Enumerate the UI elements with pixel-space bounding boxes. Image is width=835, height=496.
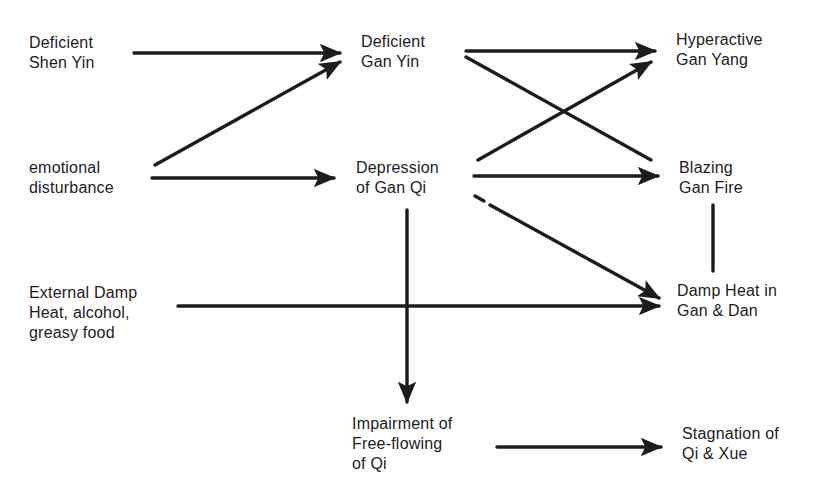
edge-emotional-to-gan-yin — [155, 62, 340, 165]
node-label-line: Damp Heat in — [677, 281, 777, 301]
node-label-line: of Gan Qi — [356, 178, 439, 198]
node-blazing-gan-fire: Blazing Gan Fire — [679, 158, 743, 198]
node-damp-heat-gan-dan: Damp Heat in Gan & Dan — [677, 281, 777, 321]
edge-depression-to-damp-heat — [490, 205, 659, 298]
node-label-line: disturbance — [29, 178, 114, 198]
pathology-flow-diagram: Deficient Shen Yin Deficient Gan Yin Hyp… — [0, 0, 835, 496]
node-hyperactive-gan-yang: Hyperactive Gan Yang — [676, 30, 763, 70]
node-deficient-gan-yin: Deficient Gan Yin — [361, 32, 425, 72]
node-deficient-shen-yin: Deficient Shen Yin — [29, 33, 95, 73]
node-label-line: greasy food — [29, 323, 137, 343]
node-label-line: Hyperactive — [676, 30, 763, 50]
node-label-line: emotional — [29, 158, 114, 178]
node-label-line: Free-flowing — [352, 434, 452, 454]
edge-gan-yin-to-blazing — [466, 57, 651, 160]
node-impairment-free-flowing: Impairment of Free-flowing of Qi — [352, 414, 452, 474]
edge-depression-to-damp-heat-start — [475, 196, 484, 201]
node-emotional-disturbance: emotional disturbance — [29, 158, 114, 198]
node-label-line: Deficient — [361, 32, 425, 52]
node-label-line: of Qi — [352, 454, 452, 474]
node-stagnation-qi-xue: Stagnation of Qi & Xue — [682, 424, 779, 464]
node-label-line: Depression — [356, 158, 439, 178]
node-label-line: External Damp — [29, 283, 137, 303]
node-label-line: Blazing — [679, 158, 743, 178]
node-label-line: Gan Yin — [361, 52, 425, 72]
node-depression-of-gan-qi: Depression of Gan Qi — [356, 158, 439, 198]
node-label-line: Gan Yang — [676, 50, 763, 70]
node-label-line: Shen Yin — [29, 53, 95, 73]
node-external-damp-heat: External Damp Heat, alcohol, greasy food — [29, 283, 137, 343]
node-label-line: Heat, alcohol, — [29, 303, 137, 323]
node-label-line: Stagnation of — [682, 424, 779, 444]
node-label-line: Qi & Xue — [682, 444, 779, 464]
node-label-line: Gan & Dan — [677, 301, 777, 321]
node-label-line: Impairment of — [352, 414, 452, 434]
node-label-line: Gan Fire — [679, 178, 743, 198]
node-label-line: Deficient — [29, 33, 95, 53]
